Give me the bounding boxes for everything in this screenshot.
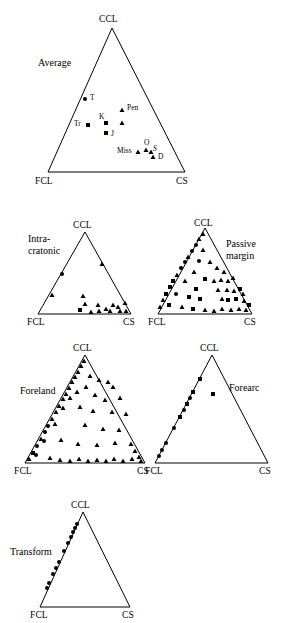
vertex-label-ccl-transform: CCL xyxy=(71,500,90,510)
ternary-panel-transform: TransformCCLFCLCS xyxy=(0,0,285,623)
data-point-circle xyxy=(45,586,49,590)
data-point-circle xyxy=(75,522,79,526)
data-point-circle xyxy=(73,526,77,530)
triangle-outline xyxy=(40,512,130,607)
vertex-label-cs-transform: CS xyxy=(122,610,134,620)
data-point-circle xyxy=(71,530,75,534)
vertex-label-fcl-transform: FCL xyxy=(30,610,48,620)
data-point-circle xyxy=(51,572,55,576)
data-point-circle xyxy=(54,566,58,570)
panel-title-transform: Transform xyxy=(10,546,52,558)
data-point-circle xyxy=(62,549,66,553)
data-point-circle xyxy=(69,535,73,539)
data-point-circle xyxy=(47,581,51,585)
triangle-plot-transform xyxy=(0,0,285,623)
data-point-circle xyxy=(57,560,61,564)
ternary-diagram-figure: AverageCCLFCLCSTPenKTrJMissOSDIntra- cra… xyxy=(0,0,285,623)
data-point-circle xyxy=(66,541,70,545)
